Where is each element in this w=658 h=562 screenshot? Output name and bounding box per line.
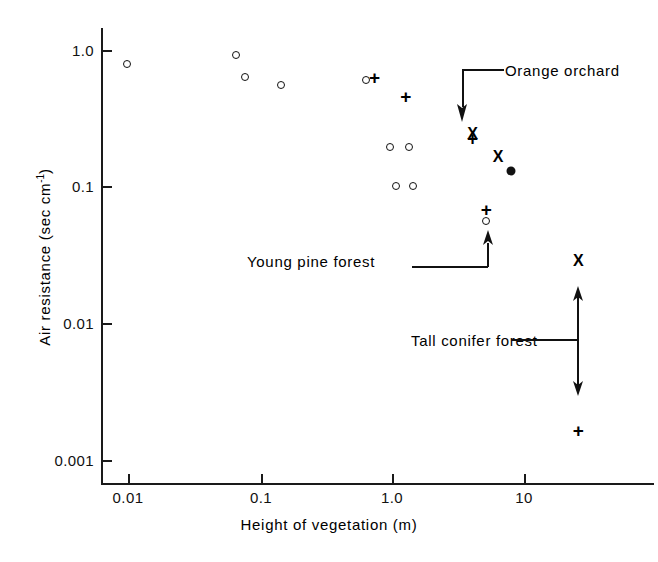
y-tick-0_01 <box>103 323 112 325</box>
x-tick-10 <box>524 474 526 483</box>
annotation-arrowheads <box>0 0 658 562</box>
annotation-young-pine-forest: Young pine forest <box>247 253 375 270</box>
x-axis-line <box>101 483 654 485</box>
data-point-plus: + <box>398 89 414 105</box>
data-point-open-circle <box>241 73 249 81</box>
y-tick-0_001 <box>103 460 112 462</box>
data-point-open-circle <box>405 143 413 151</box>
data-point-plus: + <box>367 69 383 85</box>
annotation-orange-orchard: Orange orchard <box>505 62 620 79</box>
data-point-open-circle <box>392 182 400 190</box>
leader-tall-conifer-vertical <box>577 292 579 388</box>
data-point-plus: + <box>570 422 586 438</box>
x-tick-1 <box>392 474 394 483</box>
x-tick-label-10: 10 <box>515 489 533 506</box>
data-point-open-circle <box>123 60 131 68</box>
data-point-filled-circle <box>506 167 515 176</box>
y-tick-label-1: 1.0 <box>72 42 94 59</box>
x-tick-0_1 <box>261 474 263 483</box>
data-point-cross: X <box>490 149 506 165</box>
leader-orange-orchard-horizontal <box>462 69 504 71</box>
data-point-open-circle <box>386 143 394 151</box>
y-tick-0_1 <box>103 186 112 188</box>
x-tick-0_01 <box>128 474 130 483</box>
y-tick-label-0_001: 0.001 <box>54 452 94 469</box>
x-tick-label-0_1: 0.1 <box>250 489 272 506</box>
data-point-cross: X <box>570 253 586 269</box>
data-point-plus: + <box>478 202 494 218</box>
scatter-chart-figure: 1.0 0.1 0.01 0.001 0.01 0.1 1.0 10 Heigh… <box>0 0 658 562</box>
data-point-open-circle <box>277 81 285 89</box>
data-point-open-circle <box>409 182 417 190</box>
data-point-open-circle <box>232 51 240 59</box>
y-axis-line <box>101 28 103 485</box>
y-tick-1 <box>103 50 112 52</box>
y-tick-label-0_01: 0.01 <box>63 315 94 332</box>
leader-orange-orchard-vertical <box>462 69 464 107</box>
data-point-cross: X <box>465 126 481 142</box>
leader-young-pine-horizontal <box>412 266 488 268</box>
x-axis-title: Height of vegetation (m) <box>0 516 658 533</box>
leader-tall-conifer-horizontal <box>512 339 578 341</box>
x-tick-label-1: 1.0 <box>381 489 403 506</box>
leader-young-pine-vertical <box>487 243 489 267</box>
y-axis-title: Air resistance (sec cm-1) <box>35 87 53 427</box>
x-tick-label-0_01: 0.01 <box>113 489 144 506</box>
y-tick-label-0_1: 0.1 <box>72 178 94 195</box>
